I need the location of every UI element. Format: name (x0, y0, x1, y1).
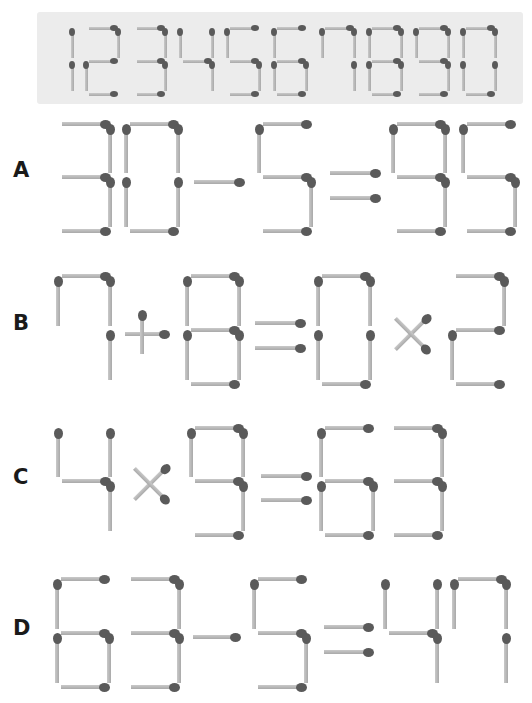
match-head-icon (209, 28, 215, 36)
match-head-icon (271, 61, 277, 69)
match-head-icon (177, 28, 183, 36)
match-head-icon (351, 28, 357, 36)
match-head-icon (460, 61, 466, 69)
match-head-icon (298, 25, 306, 31)
banner-digits (0, 0, 532, 703)
match-head-icon (460, 28, 466, 36)
match-head-icon (445, 28, 451, 36)
match-head-icon (256, 61, 262, 69)
match-head-icon (366, 28, 372, 36)
match-head-icon (492, 28, 498, 36)
match-head-icon (110, 91, 118, 97)
match-head-icon (351, 61, 357, 69)
match-head-icon (487, 91, 495, 97)
match-head-icon (298, 91, 306, 97)
match-head-icon (69, 61, 75, 69)
match-head-icon (209, 61, 215, 69)
match-head-icon (162, 28, 168, 36)
matchstick-puzzle-figure: ABCD (0, 0, 532, 703)
match-head-icon (303, 61, 309, 69)
match-head-icon (271, 28, 277, 36)
match-head-icon (398, 28, 404, 36)
match-head-icon (492, 61, 498, 69)
match-head-icon (162, 61, 168, 69)
match-head-icon (251, 25, 259, 31)
match-head-icon (413, 28, 419, 36)
match-head-icon (440, 91, 448, 97)
match-head-icon (110, 58, 118, 64)
match-head-icon (393, 91, 401, 97)
match-head-icon (224, 28, 230, 36)
match-head-icon (440, 58, 448, 64)
match-head-icon (251, 91, 259, 97)
match-head-icon (157, 91, 165, 97)
match-head-icon (69, 28, 75, 36)
match-head-icon (115, 28, 121, 36)
match-head-icon (393, 58, 401, 64)
match-head-icon (83, 61, 89, 69)
